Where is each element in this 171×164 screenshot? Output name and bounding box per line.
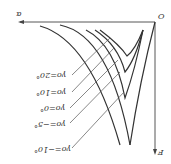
curve-label-gamma-10: γo=10° [36, 88, 66, 97]
curve-gamma-20 [100, 30, 143, 56]
curve-label-gamma-0: γo=0° [40, 104, 65, 113]
x-axis-arrow-icon [18, 20, 24, 24]
origin-label: O [158, 12, 165, 21]
curve-label-gamma-neg10: γo=−10° [34, 145, 71, 154]
curve-gamma-0 [86, 30, 143, 98]
curve-gamma-neg5 [60, 25, 130, 145]
diagram: O α F γo=20° γo=10° γo=0° γo=−5° γo=−10° [0, 0, 171, 164]
x-axis-label: α [16, 10, 21, 19]
curve-envelope [130, 22, 155, 145]
y-axis-arrow-icon [153, 149, 157, 155]
diagram-canvas [0, 0, 171, 164]
y-axis-label: F [158, 148, 164, 157]
curve-label-gamma-20: γo=20° [36, 71, 66, 80]
curve-gamma-10 [95, 30, 143, 72]
curve-label-gamma-neg5: γo=−5° [34, 120, 66, 129]
